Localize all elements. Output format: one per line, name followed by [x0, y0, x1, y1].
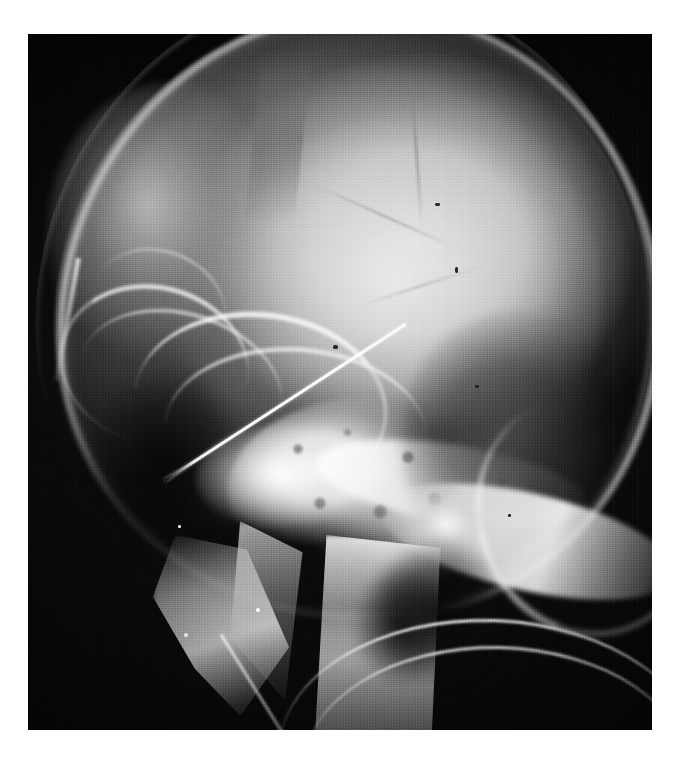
radiograph-image — [28, 34, 652, 730]
page-canvas — [0, 0, 689, 772]
